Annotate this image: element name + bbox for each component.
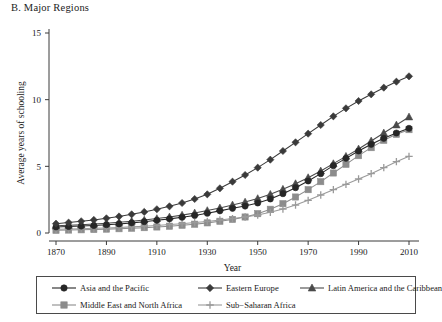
data-point-marker: [305, 187, 311, 193]
y-tick-label: 15: [32, 28, 42, 38]
data-point-marker: [141, 208, 148, 215]
data-point-marker: [317, 191, 324, 198]
data-point-marker: [166, 203, 173, 210]
legend-item-label: Middle East and North Africa: [80, 300, 182, 310]
data-point-marker: [405, 153, 412, 160]
data-point-marker: [342, 181, 349, 188]
x-axis-title: Year: [224, 263, 242, 273]
chart-legend: Asia and the PacificEastern EuropeLatin …: [36, 276, 416, 314]
axes-group: [45, 29, 419, 245]
data-point-marker: [115, 213, 122, 220]
legend-marker-triangle-icon: [299, 282, 325, 294]
data-point-marker: [343, 161, 349, 167]
data-point-marker: [380, 84, 387, 91]
data-point-marker: [61, 301, 67, 307]
data-point-marker: [141, 219, 147, 225]
data-point-marker: [116, 221, 122, 227]
legend-item: Middle East and North Africa: [51, 299, 182, 311]
data-point-marker: [154, 217, 160, 223]
y-tick-label: 10: [32, 95, 42, 105]
data-point-marker: [405, 73, 412, 80]
data-point-marker: [204, 191, 211, 198]
data-point-marker: [179, 214, 185, 220]
data-point-marker: [381, 135, 387, 141]
x-tick-label: 1870: [47, 247, 66, 257]
data-point-marker: [103, 222, 109, 228]
data-point-marker: [406, 125, 412, 131]
data-point-marker: [229, 205, 235, 211]
legend-item-label: Eastern Europe: [226, 283, 279, 293]
x-tick-label: 1990: [350, 247, 369, 257]
data-point-marker: [61, 284, 67, 290]
data-point-marker: [343, 155, 349, 161]
data-point-marker: [368, 91, 375, 98]
data-point-marker: [355, 97, 362, 104]
data-point-marker: [206, 301, 214, 309]
data-point-marker: [318, 171, 324, 177]
data-point-marker: [393, 158, 400, 165]
legend-marker-plus-icon: [197, 299, 223, 311]
legend-item: Asia and the Pacific: [51, 282, 149, 294]
data-point-marker: [191, 195, 198, 202]
data-point-marker: [279, 147, 286, 154]
x-tick-label: 2010: [400, 247, 419, 257]
data-point-marker: [280, 191, 286, 197]
data-point-marker: [267, 156, 274, 163]
data-point-marker: [192, 212, 198, 218]
data-point-marker: [242, 203, 248, 209]
data-point-marker: [204, 210, 210, 216]
legend-item: Latin America and the Caribbean: [299, 282, 442, 294]
data-point-marker: [292, 201, 299, 208]
data-point-marker: [129, 220, 135, 226]
data-point-marker: [178, 199, 185, 206]
data-point-marker: [267, 196, 273, 202]
data-point-marker: [330, 163, 336, 169]
data-point-marker: [405, 113, 412, 120]
data-point-marker: [380, 164, 387, 171]
data-point-marker: [330, 186, 337, 193]
data-point-marker: [229, 178, 236, 185]
legend-item-label: Sub−Saharan Africa: [226, 300, 296, 310]
x-tick-label: 1930: [198, 247, 217, 257]
y-tick-label: 5: [37, 162, 42, 172]
data-point-marker: [368, 141, 374, 147]
data-point-marker: [393, 78, 400, 85]
y-axis-title: Average years of schooling: [16, 81, 26, 185]
data-point-marker: [318, 179, 324, 185]
legend-item: Eastern Europe: [197, 282, 279, 294]
data-point-marker: [304, 197, 311, 204]
data-point-marker: [342, 105, 349, 112]
data-point-marker: [153, 206, 160, 213]
legend-item-label: Latin America and the Caribbean: [328, 283, 442, 293]
series-group: [52, 73, 412, 234]
data-point-marker: [103, 215, 110, 222]
data-point-marker: [292, 185, 298, 191]
data-point-marker: [254, 164, 261, 171]
data-point-marker: [393, 121, 400, 128]
data-point-marker: [292, 194, 298, 200]
data-point-marker: [90, 216, 97, 223]
data-point-marker: [292, 139, 299, 146]
legend-marker-square-icon: [51, 299, 77, 311]
legend-row: Asia and the PacificEastern EuropeLatin …: [37, 279, 415, 296]
legend-item-label: Asia and the Pacific: [80, 283, 149, 293]
legend-marker-diamond-icon: [197, 282, 223, 294]
data-point-marker: [216, 185, 223, 192]
data-point-marker: [166, 216, 172, 222]
data-point-marker: [317, 121, 324, 128]
data-point-marker: [367, 170, 374, 177]
x-tick-label: 1950: [249, 247, 268, 257]
data-point-marker: [305, 178, 311, 184]
data-point-marker: [330, 113, 337, 120]
x-tick-label: 1970: [299, 247, 318, 257]
data-point-marker: [393, 130, 399, 136]
data-point-marker: [305, 130, 312, 137]
data-point-marker: [242, 171, 249, 178]
legend-row: Middle East and North AfricaSub−Saharan …: [37, 296, 415, 313]
data-point-marker: [128, 211, 135, 218]
legend-marker-circle-icon: [51, 282, 77, 294]
data-point-marker: [206, 284, 213, 291]
data-point-marker: [380, 129, 387, 136]
legend-item: Sub−Saharan Africa: [197, 299, 296, 311]
